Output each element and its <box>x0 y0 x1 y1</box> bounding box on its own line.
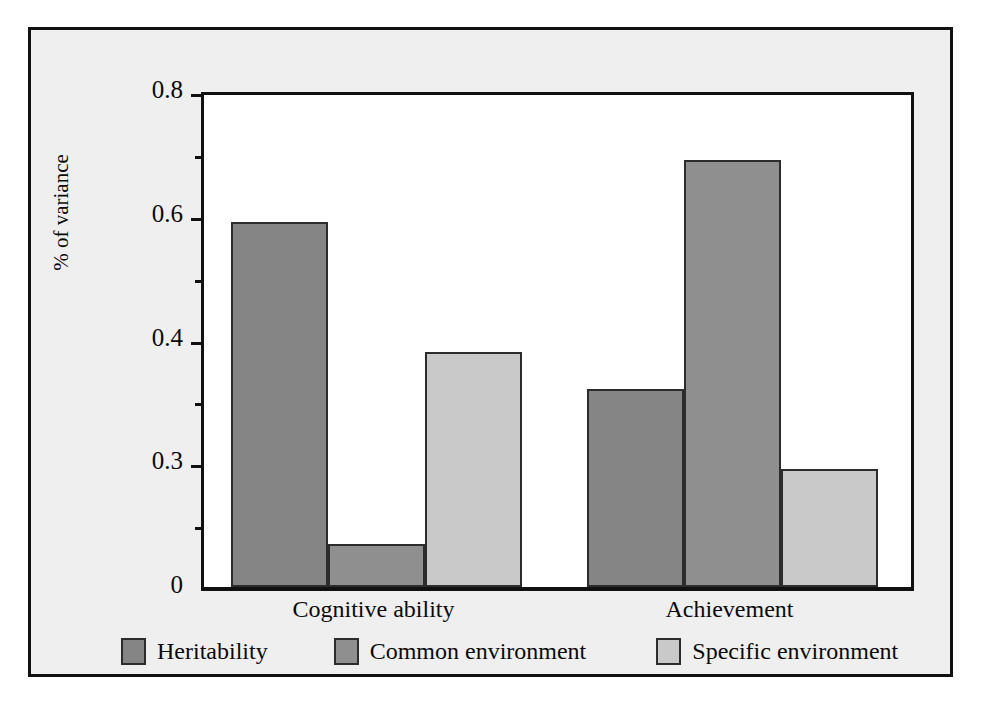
legend-item: Common environment <box>334 638 587 665</box>
bar <box>328 544 425 587</box>
bar <box>684 160 781 587</box>
x-axis-line <box>201 587 914 591</box>
y-axis-minor-tick <box>195 527 204 530</box>
legend-swatch <box>334 638 359 665</box>
y-axis-tick-label: 0.8 <box>93 77 183 102</box>
bar <box>425 352 522 587</box>
legend-swatch <box>121 638 146 665</box>
legend-label: Specific environment <box>692 638 898 665</box>
legend-label: Heritability <box>157 638 268 665</box>
legend-item: Specific environment <box>656 638 898 665</box>
chart-page: % of variance 0.80.60.40.30 Heritability… <box>0 0 987 715</box>
bar <box>781 469 878 587</box>
plot-area <box>201 92 914 587</box>
y-axis-major-tick <box>191 218 204 221</box>
y-axis-tick-label: 0.3 <box>93 448 183 473</box>
y-axis-tick-label: 0.6 <box>93 201 183 226</box>
x-axis-category-label: Achievement <box>524 596 935 623</box>
bar <box>587 389 684 587</box>
y-axis-tick-label: 0 <box>93 572 183 597</box>
y-axis-major-tick <box>191 342 204 345</box>
y-axis-title: % of variance <box>49 123 74 303</box>
legend-label: Common environment <box>370 638 587 665</box>
y-axis-labels: 0.80.60.40.30 <box>73 92 183 587</box>
y-axis-minor-tick <box>195 280 204 283</box>
y-axis-minor-tick <box>195 403 204 406</box>
y-axis-tick-label: 0.4 <box>93 325 183 350</box>
chart-legend: HeritabilityCommon environmentSpecific e… <box>121 638 911 665</box>
legend-swatch <box>656 638 681 665</box>
y-axis-major-tick <box>191 465 204 468</box>
legend-item: Heritability <box>121 638 268 665</box>
bar <box>231 222 328 587</box>
y-axis-major-tick <box>191 94 204 97</box>
x-axis-category-label: Cognitive ability <box>168 596 579 623</box>
figure-frame: % of variance 0.80.60.40.30 Heritability… <box>28 27 953 677</box>
y-axis-minor-tick <box>195 156 204 159</box>
